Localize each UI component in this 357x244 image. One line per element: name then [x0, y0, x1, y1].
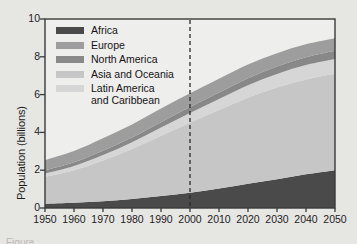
legend-label: Africa [91, 24, 118, 36]
legend-label: Latin America and Caribbean [91, 82, 160, 106]
y-axis-title: Population (billions) [15, 106, 27, 200]
y-tick-label: 6 [20, 88, 40, 100]
legend-label: Asia and Oceania [91, 68, 174, 80]
legend-swatch-icon [56, 85, 84, 92]
y-tick-label: 0 [20, 201, 40, 213]
y-tick-label: 4 [20, 125, 40, 137]
legend-swatch-icon [56, 56, 84, 63]
legend-item-europe: Europe [56, 39, 125, 51]
population-stacked-area-chart [0, 0, 357, 244]
legend-item-africa: Africa [56, 24, 118, 36]
legend-swatch-icon [56, 42, 84, 49]
legend-label: North America [91, 53, 158, 65]
legend-item-north-america: North America [56, 53, 158, 65]
legend-swatch-icon [56, 71, 84, 78]
legend-label: Europe [91, 39, 125, 51]
y-tick-label: 10 [20, 12, 40, 24]
legend-swatch-icon [56, 27, 84, 34]
y-tick-label: 2 [20, 163, 40, 175]
y-tick-label: 8 [20, 50, 40, 62]
x-tick-label: 2050 [318, 213, 352, 225]
legend-item-latin-america: Latin America and Caribbean [56, 82, 160, 106]
legend-item-asia-and-oceania: Asia and Oceania [56, 68, 174, 80]
figure-caption-stub: Figure [6, 237, 34, 244]
